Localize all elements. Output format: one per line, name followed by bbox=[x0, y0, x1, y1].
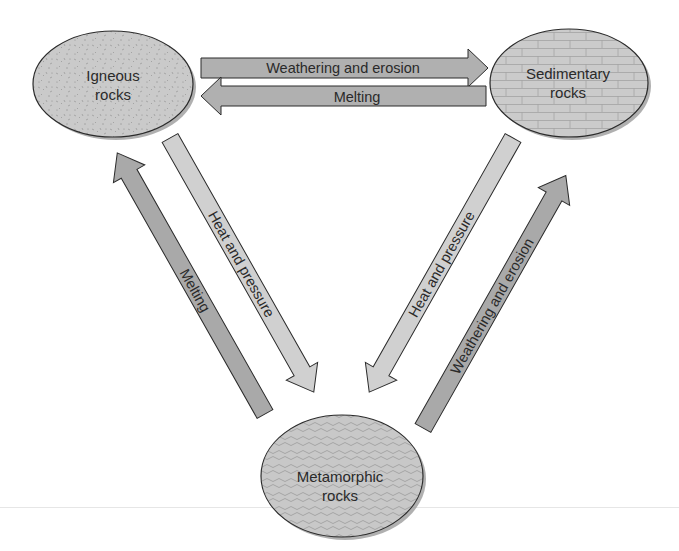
edge-label: Weathering and erosion bbox=[266, 60, 420, 76]
edge-sedimentary-to-igneous: Melting bbox=[201, 77, 486, 115]
edge-label: Weathering and erosion bbox=[447, 235, 537, 377]
edge-label: Melting bbox=[334, 89, 381, 105]
node-igneous-rocks: Igneous rocks bbox=[33, 31, 196, 140]
igneous-texture-icon bbox=[33, 31, 193, 137]
rock-cycle-diagram: Weathering and erosion Melting Heat and … bbox=[0, 0, 679, 551]
edge-metamorphic-to-sedimentary: Weathering and erosion bbox=[407, 167, 581, 437]
edge-label: Heat and pressure bbox=[205, 208, 278, 320]
node-label-line2: rocks bbox=[322, 487, 358, 504]
edge-sedimentary-to-metamorphic: Heat and pressure bbox=[354, 129, 529, 401]
node-label-line1: Metamorphic bbox=[297, 468, 384, 485]
node-label-line1: Igneous bbox=[86, 67, 139, 84]
sedimentary-texture-icon bbox=[490, 29, 648, 137]
node-sedimentary-rocks: Sedimentary rocks bbox=[490, 29, 651, 140]
edge-label: Heat and pressure bbox=[405, 208, 478, 320]
node-label-line1: Sedimentary bbox=[526, 65, 611, 82]
node-metamorphic-rocks: Metamorphic rocks bbox=[261, 415, 426, 540]
node-label-line2: rocks bbox=[95, 86, 131, 103]
edge-igneous-to-sedimentary: Weathering and erosion bbox=[201, 49, 488, 87]
node-label-line2: rocks bbox=[550, 84, 586, 101]
